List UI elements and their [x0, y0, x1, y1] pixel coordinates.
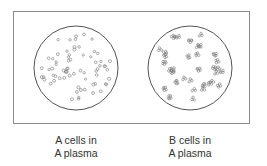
left-panel-caption: A cells in A plasma: [26, 134, 126, 159]
left-plate-a-cells: [34, 26, 118, 110]
left-caption-line2: A plasma: [26, 147, 126, 160]
right-caption-line2: A plasma: [140, 147, 240, 160]
right-caption-line1: B cells in: [140, 134, 240, 147]
left-caption-line1: A cells in: [26, 134, 126, 147]
right-plate-b-cells-clumped: [148, 26, 232, 110]
right-panel-caption: B cells in A plasma: [140, 134, 240, 159]
